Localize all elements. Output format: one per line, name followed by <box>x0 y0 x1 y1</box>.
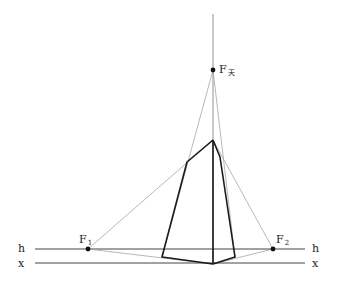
prism-figure <box>162 140 235 264</box>
construction-line-fsky-right <box>213 70 235 257</box>
f1-letter: F <box>79 233 87 246</box>
construction-line-f2-top <box>213 140 273 249</box>
fsky-letter: F <box>219 63 227 76</box>
f1-subscript: 1 <box>88 239 92 247</box>
figure-right-face <box>213 140 235 264</box>
vanishing-point-f2-dot <box>271 247 276 252</box>
vanishing-point-f1-dot <box>86 247 91 252</box>
f2-letter: F <box>276 233 284 246</box>
vanishing-point-f1-label: F1 <box>79 234 92 247</box>
horizon-label-left: h <box>18 243 25 254</box>
figure-left-face <box>162 140 213 264</box>
fsky-subscript: 天 <box>228 69 235 77</box>
vanishing-point-f2-label: F2 <box>276 234 289 247</box>
perspective-diagram: h h x x F1 F2 F天 <box>0 0 340 288</box>
vanishing-point-fsky-label: F天 <box>219 64 235 77</box>
f2-subscript: 2 <box>285 239 289 247</box>
ground-label-left: x <box>18 258 24 269</box>
horizon-label-right: h <box>312 243 319 254</box>
ground-label-right: x <box>312 258 318 269</box>
vanishing-point-fsky-dot <box>211 68 216 73</box>
